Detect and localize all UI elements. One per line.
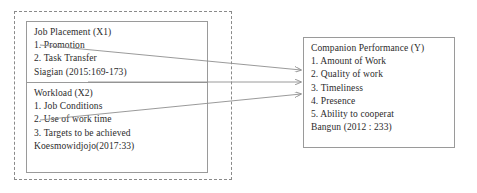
variable-cell-x2: Workload (X2) 1. Job Conditions 2. Use o… [27,83,207,172]
variable-y-title: Companion Performance (Y) [311,42,454,55]
variable-y-indicator-4: 4. Presence [311,95,454,108]
variable-y-source: Bangun (2012 : 233) [311,121,454,134]
variable-cell-x1: Job Placement (X1) 1. Promotion 2. Task … [27,22,207,83]
variable-y-indicator-1: 1. Amount of Work [311,55,454,68]
variable-x1-indicator-1: 1. Promotion [34,39,207,52]
variable-y-indicator-5: 5. Ability to cooperat [311,108,454,121]
dependent-variable-box: Companion Performance (Y) 1. Amount of W… [303,37,455,148]
variable-x2-indicator-2: 2. Use of work time [34,113,207,126]
variable-x2-indicator-1: 1. Job Conditions [34,100,207,113]
conceptual-framework-diagram: Job Placement (X1) 1. Promotion 2. Task … [0,0,477,193]
variable-x2-indicator-3: 3. Targets to be achieved [34,127,207,140]
variable-y-indicator-2: 2. Quality of work [311,68,454,81]
variable-x1-title: Job Placement (X1) [34,26,207,39]
variable-x1-indicator-2: 2. Task Transfer [34,52,207,65]
independent-variables-box: Job Placement (X1) 1. Promotion 2. Task … [26,21,208,173]
variable-x1-source: Siagian (2015:169-173) [34,66,207,79]
variable-x2-source: Koesmowidjojo(2017:33) [34,140,207,153]
variable-y-indicator-3: 3. Timeliness [311,82,454,95]
variable-x2-title: Workload (X2) [34,87,207,100]
